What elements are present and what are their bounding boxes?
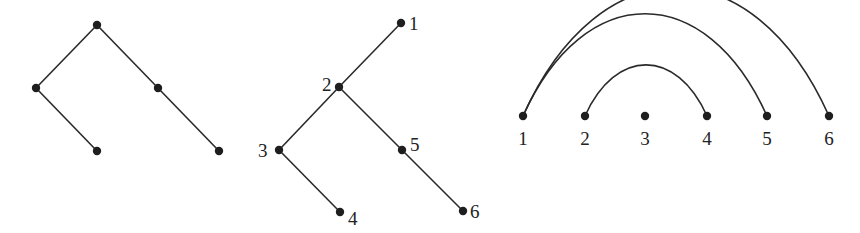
tree-node: [93, 21, 101, 29]
node-label: 2: [322, 74, 332, 95]
tree-edge: [402, 150, 463, 211]
node-label: 4: [702, 128, 712, 149]
node-label: 1: [409, 13, 419, 34]
tree-node: [459, 207, 467, 215]
node-label: 3: [258, 140, 268, 161]
arc-node: [825, 112, 833, 120]
node-label: 1: [518, 128, 528, 149]
tree-node: [32, 84, 40, 92]
unlabeled-tree: [32, 21, 223, 155]
tree-node: [336, 208, 344, 216]
node-label: 4: [348, 208, 358, 229]
arc-edge: [585, 65, 707, 116]
node-label: 6: [470, 201, 480, 222]
tree-node: [335, 83, 343, 91]
arc-edge: [523, 0, 829, 116]
figure-canvas: 123456 123456: [0, 0, 860, 233]
labeled-tree: 123456: [258, 13, 480, 229]
node-label: 6: [824, 128, 834, 149]
node-label: 5: [410, 134, 420, 155]
arc-node: [519, 112, 527, 120]
tree-node: [275, 146, 283, 154]
tree-edge: [36, 88, 97, 151]
node-label: 3: [640, 128, 650, 149]
tree-edge: [279, 87, 339, 150]
arc-node: [703, 112, 711, 120]
tree-edge: [279, 150, 340, 212]
arc-node: [581, 112, 589, 120]
node-label: 2: [580, 128, 590, 149]
tree-edge: [158, 88, 219, 151]
arc-node: [763, 112, 771, 120]
node-label: 5: [762, 128, 772, 149]
arc-node: [641, 112, 649, 120]
tree-node: [397, 19, 405, 27]
tree-node: [398, 146, 406, 154]
tree-node: [154, 84, 162, 92]
tree-edge: [97, 25, 158, 88]
tree-edge: [339, 87, 402, 150]
tree-edge: [36, 25, 97, 88]
tree-node: [215, 147, 223, 155]
tree-edge: [339, 23, 401, 87]
arc-diagram: 123456: [518, 0, 834, 149]
tree-node: [93, 147, 101, 155]
